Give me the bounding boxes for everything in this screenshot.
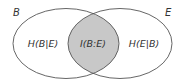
set-b-label: B: [13, 7, 20, 18]
venn-diagram: B E H(B|E) I(B:E) H(E|B): [0, 0, 180, 83]
intersection-label: I(B:E): [80, 38, 106, 49]
set-e-label: E: [165, 7, 172, 18]
right-only-label: H(E|B): [129, 38, 159, 49]
left-only-label: H(B|E): [28, 38, 58, 49]
